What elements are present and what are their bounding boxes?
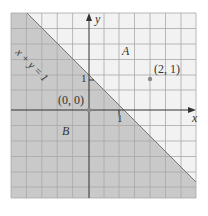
point-2-1-label: (2, 1) (154, 62, 180, 77)
half-plane-diagram (0, 0, 208, 216)
point-origin (87, 108, 91, 112)
y-tick-label: 1 (81, 72, 87, 84)
region-b-label: B (62, 124, 69, 139)
y-axis-label: y (95, 12, 100, 27)
region-a-label: A (122, 44, 129, 59)
x-tick-label: 1 (117, 112, 123, 124)
point-origin-label: (0, 0) (58, 93, 84, 108)
point-2-1 (148, 77, 152, 81)
x-axis-label: x (192, 111, 197, 126)
